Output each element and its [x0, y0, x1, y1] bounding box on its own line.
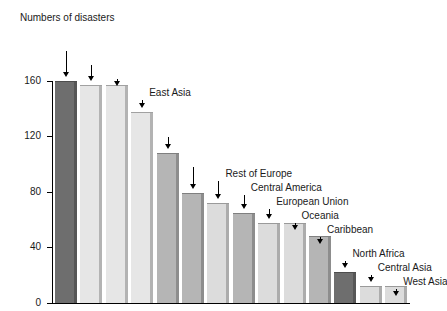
bar	[360, 286, 382, 303]
y-tick-label-120: 120	[24, 130, 41, 141]
bar-label: West Asia	[403, 276, 447, 287]
bar-top-cap	[131, 112, 153, 113]
bar-top-cap	[182, 193, 204, 194]
y-tick-mark-0	[47, 303, 52, 304]
y-axis-line	[52, 81, 53, 303]
bar-top-cap	[258, 223, 280, 224]
bar	[80, 85, 102, 303]
bar-shadow-edge	[277, 223, 280, 303]
callout-arrow-head-icon	[292, 225, 298, 230]
callout-arrow-stem	[66, 51, 67, 72]
callout-arrow-head-icon	[139, 103, 145, 108]
callout-arrow-head-icon	[342, 263, 348, 268]
y-tick-label-160: 160	[24, 75, 41, 86]
bar-shadow-edge	[150, 112, 153, 303]
callout-arrow-stem	[218, 181, 219, 194]
bar-label: Central America	[251, 182, 322, 193]
callout-arrow-head-icon	[63, 72, 69, 77]
bar	[131, 112, 153, 303]
bar	[309, 236, 331, 303]
bar-label: Caribbean	[327, 224, 373, 235]
bar-label: Rest of Europe	[225, 168, 292, 179]
bar	[334, 272, 356, 303]
bar-top-cap	[207, 203, 229, 204]
callout-arrow-stem	[244, 195, 245, 204]
bar-shadow-edge	[74, 81, 77, 303]
bar-top-cap	[233, 213, 255, 214]
bar-top-cap	[360, 286, 382, 287]
bar-shadow-edge	[379, 286, 382, 303]
callout-arrow-head-icon	[266, 214, 272, 219]
callout-arrow-stem	[91, 65, 92, 76]
bar	[182, 193, 204, 303]
bar-top-cap	[157, 153, 179, 154]
bar-shadow-edge	[303, 223, 306, 303]
bar-top-cap	[80, 85, 102, 86]
callout-arrow-head-icon	[88, 76, 94, 81]
bar	[207, 203, 229, 303]
callout-arrow-head-icon	[241, 204, 247, 209]
y-tick-mark-120	[47, 136, 52, 137]
bar-shadow-edge	[226, 203, 229, 303]
y-tick-mark-80	[47, 192, 52, 193]
bar-label: European Union	[276, 196, 348, 207]
bar-label: East Asia	[149, 87, 191, 98]
bar-shadow-edge	[201, 193, 204, 303]
bar-shadow-edge	[176, 153, 179, 303]
y-tick-mark-160	[47, 81, 52, 82]
bar-shadow-edge	[353, 272, 356, 303]
bar	[55, 81, 77, 303]
bar-shadow-edge	[99, 85, 102, 303]
bar	[258, 223, 280, 303]
bar-top-cap	[55, 81, 77, 82]
callout-arrow-stem	[168, 137, 169, 144]
callout-arrow-head-icon	[317, 239, 323, 244]
y-tick-mark-40	[47, 247, 52, 248]
callout-arrow-head-icon	[190, 184, 196, 189]
bar	[233, 213, 255, 303]
bar-label: Oceania	[302, 210, 339, 221]
callout-arrow-head-icon	[368, 277, 374, 282]
callout-arrow-head-icon	[215, 194, 221, 199]
callout-arrow-head-icon	[393, 291, 399, 296]
bar	[284, 223, 306, 303]
chart-title: Numbers of disasters	[20, 12, 114, 23]
bar-shadow-edge	[252, 213, 255, 303]
callout-arrow-head-icon	[114, 81, 120, 86]
bar-label: North Africa	[352, 248, 404, 259]
bar-top-cap	[334, 272, 356, 273]
y-tick-label-40: 40	[30, 241, 41, 252]
bar-shadow-edge	[125, 85, 128, 303]
bar	[157, 153, 179, 303]
callout-arrow-stem	[193, 167, 194, 184]
y-tick-label-80: 80	[30, 186, 41, 197]
bar-label: Central Asia	[378, 262, 432, 273]
x-axis-line	[52, 303, 410, 304]
bar-shadow-edge	[404, 286, 407, 303]
bar	[106, 85, 128, 303]
bar-shadow-edge	[328, 236, 331, 303]
y-tick-label-0: 0	[35, 297, 41, 308]
callout-arrow-head-icon	[165, 144, 171, 149]
